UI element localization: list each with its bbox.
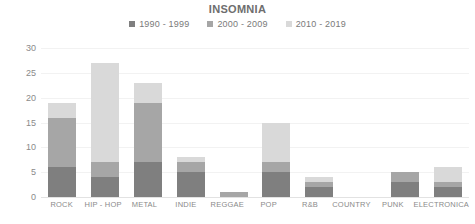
y-axis: 051015202530 [0, 48, 36, 197]
bar-group[interactable] [426, 48, 469, 197]
plot-area [41, 48, 469, 197]
bar-stack[interactable] [91, 48, 119, 197]
bar-segment[interactable] [262, 172, 290, 197]
bar-segment[interactable] [91, 63, 119, 162]
bar-segment[interactable] [305, 187, 333, 197]
y-axis-tick-label: 0 [0, 192, 36, 202]
legend-label: 1990 - 1999 [139, 19, 189, 29]
bar-segment[interactable] [48, 118, 76, 168]
bar-segment[interactable] [91, 162, 119, 177]
x-axis-tick-label: REGGAE [207, 200, 248, 216]
x-axis: ROCKHIP - HOPMETALINDIEREGGAEPOPR&BCOUNT… [41, 200, 469, 216]
legend-item-2000-2009[interactable]: 2000 - 2009 [207, 19, 267, 29]
y-axis-tick-label: 10 [0, 142, 36, 152]
bar-group[interactable] [255, 48, 298, 197]
chart-title: INSOMNIA [0, 3, 475, 15]
bar-stack[interactable] [434, 48, 462, 197]
bar-group[interactable] [383, 48, 426, 197]
bar-stack[interactable] [305, 48, 333, 197]
bar-stack[interactable] [177, 48, 205, 197]
y-axis-tick-label: 30 [0, 43, 36, 53]
x-axis-tick-label: ROCK [41, 200, 82, 216]
legend-swatch-icon [286, 21, 292, 27]
bar-series-group [41, 48, 469, 197]
legend-label: 2010 - 2019 [296, 19, 346, 29]
bar-group[interactable] [41, 48, 84, 197]
bar-segment[interactable] [48, 103, 76, 118]
chart-legend: 1990 - 1999 2000 - 2009 2010 - 2019 [0, 19, 475, 29]
bar-segment[interactable] [177, 172, 205, 197]
bar-segment[interactable] [91, 177, 119, 197]
axis-baseline [41, 197, 469, 198]
x-axis-tick-label: PUNK [372, 200, 413, 216]
bar-stack[interactable] [134, 48, 162, 197]
legend-swatch-icon [207, 21, 213, 27]
bar-segment[interactable] [220, 192, 248, 197]
bar-group[interactable] [212, 48, 255, 197]
x-axis-tick-label: R&B [289, 200, 330, 216]
bar-segment[interactable] [177, 162, 205, 172]
y-axis-tick-label: 25 [0, 68, 36, 78]
chart-container: INSOMNIA 1990 - 1999 2000 - 2009 2010 - … [0, 0, 475, 224]
bar-stack[interactable] [220, 48, 248, 197]
bar-stack[interactable] [48, 48, 76, 197]
bar-segment[interactable] [134, 103, 162, 163]
bar-group[interactable] [341, 48, 384, 197]
legend-item-2010-2019[interactable]: 2010 - 2019 [286, 19, 346, 29]
bar-segment[interactable] [48, 167, 76, 197]
x-axis-tick-label: METAL [124, 200, 165, 216]
legend-item-1990-1999[interactable]: 1990 - 1999 [129, 19, 189, 29]
bar-segment[interactable] [434, 167, 462, 182]
bar-segment[interactable] [134, 83, 162, 103]
y-axis-tick-label: 5 [0, 167, 36, 177]
bar-segment[interactable] [391, 172, 419, 182]
bar-stack[interactable] [348, 48, 376, 197]
bar-group[interactable] [169, 48, 212, 197]
bar-stack[interactable] [391, 48, 419, 197]
x-axis-tick-label: POP [248, 200, 289, 216]
bar-group[interactable] [298, 48, 341, 197]
x-axis-tick-label: INDIE [165, 200, 206, 216]
x-axis-tick-label: COUNTRY [331, 200, 372, 216]
bar-segment[interactable] [262, 123, 290, 163]
y-axis-tick-label: 20 [0, 93, 36, 103]
legend-swatch-icon [129, 21, 135, 27]
y-axis-tick-label: 15 [0, 118, 36, 128]
bar-stack[interactable] [262, 48, 290, 197]
x-axis-tick-label: ELECTRONICA [414, 200, 470, 216]
bar-segment[interactable] [434, 187, 462, 197]
bar-group[interactable] [127, 48, 170, 197]
x-axis-tick-label: HIP - HOP [82, 200, 123, 216]
bar-group[interactable] [84, 48, 127, 197]
bar-segment[interactable] [134, 162, 162, 197]
bar-segment[interactable] [391, 182, 419, 197]
legend-label: 2000 - 2009 [217, 19, 267, 29]
bar-segment[interactable] [262, 162, 290, 172]
